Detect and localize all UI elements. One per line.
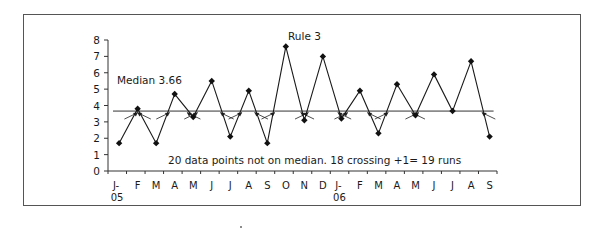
x-tick-label: M — [411, 180, 420, 191]
x-axis: J-05FMAMJJASONDJ-06FMAMJJAS — [108, 171, 497, 203]
x-tick-label: J — [432, 180, 436, 191]
y-tick-label: 7 — [93, 50, 100, 62]
y-tick-label: 3 — [93, 116, 100, 128]
median-label: Median 3.66 — [117, 74, 182, 86]
data-point-marker — [468, 58, 474, 64]
y-tick-label: 1 — [93, 149, 100, 161]
y-tick-label: 4 — [93, 100, 100, 112]
y-tick-label: 5 — [93, 83, 100, 95]
x-tick-year-label: 06 — [333, 192, 346, 203]
x-tick-label: S — [486, 180, 492, 191]
x-tick-label: S — [264, 180, 270, 191]
data-markers — [116, 43, 493, 146]
x-tick-label: A — [394, 180, 401, 191]
summary-annotation: 20 data points not on median. 18 crossin… — [168, 154, 461, 166]
x-tick-year-label: 05 — [111, 192, 124, 203]
y-axis: 012345678 — [93, 34, 108, 177]
crossing-arrows — [124, 113, 495, 120]
y-tick-label: 6 — [93, 67, 100, 79]
x-tick-label: A — [468, 180, 475, 191]
data-point-marker — [486, 133, 492, 139]
data-point-marker — [283, 43, 289, 49]
data-point-marker — [209, 78, 215, 84]
rule-label: Rule 3 — [288, 30, 321, 42]
data-point-marker — [153, 140, 159, 146]
data-point-marker — [116, 140, 122, 146]
y-tick-label: 8 — [93, 34, 100, 46]
stray-dot — [240, 226, 242, 228]
data-point-marker — [431, 71, 437, 77]
x-tick-label: M — [152, 180, 161, 191]
data-point-marker — [320, 53, 326, 59]
x-tick-label: N — [301, 180, 308, 191]
x-tick-label: O — [282, 180, 290, 191]
x-tick-label: J- — [112, 180, 120, 191]
data-point-marker — [246, 88, 252, 94]
x-tick-label: J — [209, 180, 213, 191]
data-point-marker — [227, 133, 233, 139]
x-tick-label: F — [357, 180, 363, 191]
x-tick-label: J — [228, 180, 232, 191]
x-tick-label: J- — [334, 180, 342, 191]
y-tick-label: 2 — [93, 132, 100, 144]
data-point-marker — [264, 140, 270, 146]
data-point-marker — [357, 88, 363, 94]
x-tick-label: J — [450, 180, 454, 191]
x-tick-label: A — [245, 180, 252, 191]
data-point-marker — [394, 81, 400, 87]
y-tick-label: 0 — [93, 165, 100, 177]
x-tick-label: D — [319, 180, 327, 191]
run-chart: 012345678 J-05FMAMJJASONDJ-06FMAMJJAS Me… — [0, 0, 595, 235]
x-tick-label: M — [189, 180, 198, 191]
data-point-marker — [449, 108, 455, 114]
x-tick-label: M — [374, 180, 383, 191]
data-point-marker — [375, 130, 381, 136]
x-tick-label: A — [171, 180, 178, 191]
x-tick-label: F — [135, 180, 141, 191]
data-point-marker — [301, 117, 307, 123]
